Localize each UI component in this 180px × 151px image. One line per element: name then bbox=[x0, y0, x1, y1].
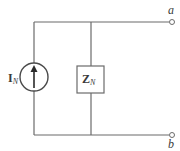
terminal-a bbox=[170, 20, 175, 25]
norton-circuit-diagram: IN ZN a b bbox=[0, 0, 180, 151]
terminal-b-label: b bbox=[168, 137, 174, 151]
current-source bbox=[20, 63, 48, 91]
terminal-a-label: a bbox=[168, 3, 174, 17]
source-label: IN bbox=[8, 71, 19, 86]
